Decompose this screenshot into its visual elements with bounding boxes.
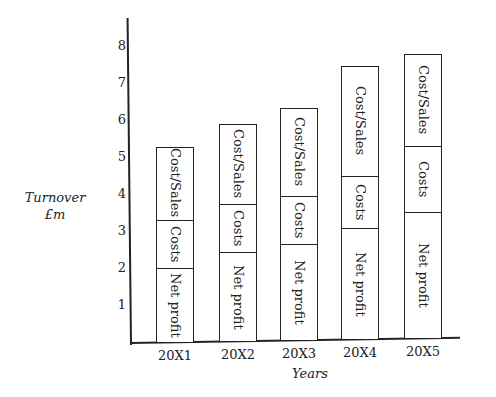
segment-label: Cost/Sales [416,65,431,134]
segment-cost-sales: Cost/Sales [220,123,256,204]
segment-label: Costs [353,184,368,220]
segment-cost-sales: Cost/Sales [405,53,441,146]
bar-20X1: Net profitCostsCost/Sales [156,147,194,343]
segment-net-profit: Net profit [157,268,193,342]
segment-label: Net profit [353,252,368,317]
segment-cost-sales: Cost/Sales [342,65,378,176]
x-tick-label: 20X2 [208,347,268,362]
bar-20X2: Net profitCostsCost/Sales [219,124,257,342]
x-tick-label: 20X1 [145,348,205,363]
segment-costs: Costs [220,204,256,252]
segment-label: Net profit [292,260,307,325]
segment-label: Cost/Sales [231,129,246,198]
x-tick-label: 20X5 [393,344,453,359]
segment-net-profit: Net profit [281,244,317,340]
bar-20X5: Net profitCostsCost/Sales [404,54,442,339]
segment-label: Costs [231,210,246,246]
x-tick-label: 20X3 [269,346,329,361]
segment-label: Net profit [168,273,183,338]
segment-label: Cost/Sales [292,117,307,186]
x-tick-label: 20X4 [330,345,390,360]
y-axis-title-line-2: £m [0,206,110,223]
segment-label: Cost/Sales [168,148,183,217]
segment-costs: Costs [157,220,193,268]
segment-net-profit: Net profit [405,212,441,338]
segment-label: Net profit [231,265,246,330]
y-tick-label: 8 [112,38,132,53]
segment-label: Cost/Sales [353,86,368,155]
segment-net-profit: Net profit [220,252,256,341]
x-axis-title: Years [270,366,350,381]
segment-cost-sales: Cost/Sales [157,146,193,220]
bar-20X4: Net profitCostsCost/Sales [341,66,379,340]
segment-net-profit: Net profit [342,228,378,339]
segment-label: Costs [168,226,183,262]
segment-cost-sales: Cost/Sales [281,107,317,196]
y-axis-title: Turnover £m [0,189,110,223]
stacked-bar-chart: Turnover £m 12345678 Net profitCostsCost… [0,0,496,397]
segment-label: Costs [416,161,431,197]
segment-costs: Costs [342,176,378,228]
segment-label: Costs [292,202,307,238]
segment-costs: Costs [405,146,441,213]
segment-costs: Costs [281,196,317,244]
segment-label: Net profit [416,243,431,308]
y-axis-title-line-1: Turnover [0,189,110,206]
y-axis-line [127,18,132,345]
bar-20X3: Net profitCostsCost/Sales [280,108,318,341]
